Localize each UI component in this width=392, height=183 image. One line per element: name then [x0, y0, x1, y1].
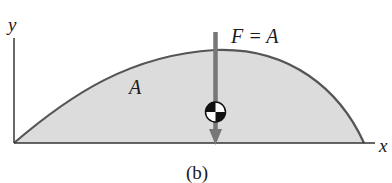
area-label: A — [127, 76, 142, 98]
x-axis-label: x — [378, 135, 388, 156]
y-axis-label: y — [6, 14, 17, 35]
distributed-load-diagram: y x A F = A (b) — [0, 0, 392, 183]
centroid-icon — [206, 102, 226, 122]
force-label: F = A — [230, 25, 279, 47]
figure-caption: (b) — [186, 162, 208, 183]
area-region — [14, 50, 364, 143]
